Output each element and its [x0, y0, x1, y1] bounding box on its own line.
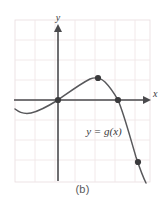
point-local-maximum: [95, 75, 101, 81]
y-axis-label: y: [55, 12, 61, 23]
point-origin-intercept: [55, 97, 61, 103]
point-descending: [135, 159, 141, 165]
figure-caption: (b): [0, 183, 165, 195]
x-axis-label: x: [152, 88, 158, 99]
graph-svg: x y y = g(x): [0, 0, 165, 190]
point-x-intercept: [115, 97, 121, 103]
curve-label: y = g(x): [85, 125, 122, 138]
grid-lines: [15, 20, 150, 182]
plot-area: x y y = g(x): [0, 0, 165, 190]
figure-container: x y y = g(x) (b): [0, 0, 165, 205]
